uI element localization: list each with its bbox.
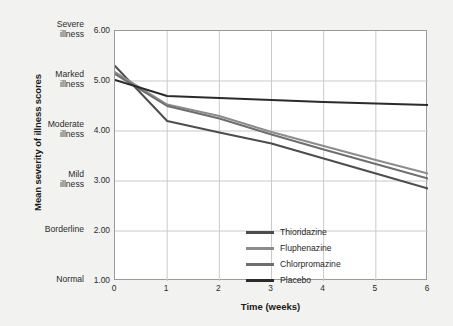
legend-item: Thioridazine	[246, 224, 376, 240]
x-axis-title: Time (weeks)	[114, 301, 427, 312]
legend-swatch-chlorpromazine	[246, 263, 274, 266]
legend-item: Fluphenazine	[246, 240, 376, 256]
y-axis-tick-label: 5.00	[84, 75, 110, 85]
legend-swatch-thioridazine	[246, 231, 274, 234]
y-axis-category-label: Moderateillness	[28, 120, 84, 139]
legend-item: Chlorpromazine	[246, 256, 376, 272]
chart-legend: ThioridazineFluphenazineChlorpromazinePl…	[246, 224, 376, 288]
y-axis-tick-label: 2.00	[84, 225, 110, 235]
legend-label: Thioridazine	[280, 227, 327, 237]
y-axis-category-label: Markedillness	[28, 70, 84, 89]
y-axis-tick-label: 6.00	[84, 25, 110, 35]
y-axis-category-label: Normal	[28, 275, 84, 285]
legend-swatch-placebo	[246, 279, 274, 282]
y-axis-tick-label: 4.00	[84, 125, 110, 135]
legend-label: Fluphenazine	[280, 243, 332, 253]
y-axis-category-labels: SevereillnessMarkedillnessModerateillnes…	[28, 22, 84, 282]
y-axis-tick-label: 3.00	[84, 175, 110, 185]
plot-area: ThioridazineFluphenazineChlorpromazinePl…	[114, 30, 427, 280]
chart-figure: Mean severity of illness scores Severeil…	[0, 0, 453, 326]
x-axis-tick-label: 2	[206, 283, 230, 293]
legend-label: Chlorpromazine	[280, 259, 341, 269]
legend-swatch-fluphenazine	[246, 247, 274, 250]
y-axis-category-label: Severeillness	[28, 20, 84, 39]
x-axis-tick-label: 3	[259, 283, 283, 293]
x-axis-tick-label: 1	[154, 283, 178, 293]
x-axis-tick-label: 4	[311, 283, 335, 293]
x-axis-tick-label: 5	[363, 283, 387, 293]
x-axis-tick-label: 0	[102, 283, 126, 293]
y-axis-category-label: Borderline	[28, 225, 84, 235]
x-axis-tick-label: 6	[415, 283, 439, 293]
y-axis-category-label: Mildillness	[28, 170, 84, 189]
x-axis-tick-labels: 0123456	[114, 283, 427, 297]
y-axis-tick-labels: 1.002.003.004.005.006.00	[84, 22, 110, 282]
